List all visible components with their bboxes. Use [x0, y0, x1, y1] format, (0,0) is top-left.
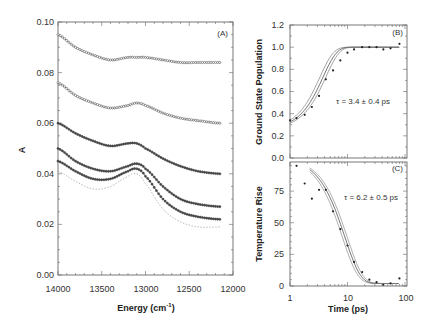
b-ytick: 0.6	[271, 86, 284, 96]
c-ytick: 50	[274, 218, 284, 228]
c-xtick: 1	[287, 293, 292, 303]
c-ytick: 0	[279, 281, 284, 291]
c-panel-label: (C)	[392, 164, 403, 173]
b-ytick: 1.0	[271, 42, 284, 52]
panel-c-series	[295, 165, 400, 286]
b-panel-label: (B)	[392, 28, 403, 37]
c-xlabel: Time (ps)	[328, 304, 368, 314]
a-xtick: 14000	[45, 284, 70, 294]
b-ytick: 0.2	[271, 131, 284, 141]
b-ylabel: Ground State Population	[254, 39, 264, 145]
figure: 0.10 0.08 0.06 0.04 0.02 0.00 14000 1350…	[0, 0, 427, 331]
panel-b: 1.2 1.0 0.8 0.6 0.4 0.2 0.0 Ground State…	[254, 20, 407, 163]
panel-c-ticks	[290, 162, 407, 286]
a-ytick: 0.00	[36, 270, 54, 280]
a-xtick: 12500	[176, 284, 201, 294]
a-ytick: 0.04	[36, 169, 54, 179]
panel-a: 0.10 0.08 0.06 0.04 0.02 0.00 14000 1350…	[17, 17, 246, 313]
b-annotation: τ = 3.4 ± 0.4 ps	[336, 97, 390, 106]
c-ylabel: Temperature Rise	[254, 186, 264, 261]
b-ytick: 0.8	[271, 64, 284, 74]
c-ytick: 75	[274, 186, 284, 196]
panel-b-ticks	[290, 25, 407, 158]
a-ylabel: A	[17, 146, 27, 153]
a-panel-label: (A)	[217, 29, 228, 38]
b-ytick: 0.4	[271, 109, 284, 119]
a-xlabel: Energy (cm-1)	[117, 302, 174, 313]
a-xtick: 13500	[89, 284, 114, 294]
b-ytick: 0.0	[271, 153, 284, 163]
a-ytick: 0.06	[36, 118, 54, 128]
panel-c: 75 50 25 0 1 10 100 Time (ps) Temperatur…	[254, 162, 414, 314]
c-xtick: 10	[343, 293, 353, 303]
a-ytick: 0.10	[36, 17, 54, 27]
c-xtick: 100	[398, 293, 413, 303]
a-xtick: 13000	[133, 284, 158, 294]
a-ytick: 0.02	[36, 219, 54, 229]
a-xtick: 12000	[220, 284, 245, 294]
c-ytick: 25	[274, 249, 284, 259]
panel-b-frame	[290, 25, 407, 158]
panel-b-series	[289, 43, 401, 123]
b-ytick: 1.2	[271, 20, 284, 30]
panel-c-frame	[290, 162, 407, 286]
a-ytick: 0.08	[36, 68, 54, 78]
panel-a-series	[57, 34, 221, 228]
c-annotation: τ = 6.2 ± 0.5 ps	[344, 193, 398, 202]
